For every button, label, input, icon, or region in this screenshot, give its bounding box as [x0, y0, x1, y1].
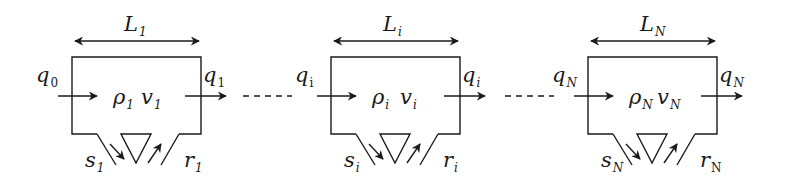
- speed-label: v1: [141, 85, 162, 112]
- inflow-label: q0: [36, 63, 58, 90]
- road-segment: LNqNqNρNvNsNrN: [552, 12, 744, 175]
- segment-chain-diagram: L1q0q1ρ1v1s1r1LiqiqiρivisiriLNqNqNρNvNsN…: [0, 0, 794, 189]
- ramp-divider-triangle: [380, 134, 410, 163]
- onramp-arrow-icon: [148, 144, 161, 163]
- inflow-label: qN: [552, 63, 577, 90]
- length-label: LN: [639, 12, 666, 39]
- inflow-label: qi: [295, 63, 313, 90]
- offramp-label: si: [344, 148, 360, 175]
- outflow-label: qi: [462, 63, 480, 90]
- ramp-divider-triangle: [121, 134, 151, 163]
- length-label: L1: [123, 12, 147, 39]
- offramp-label: s1: [85, 148, 104, 175]
- onramp-arrow-icon: [664, 144, 677, 163]
- offramp-arrow-icon: [110, 144, 124, 159]
- offramp-arrow-icon: [626, 144, 640, 159]
- onramp-label: rN: [700, 148, 722, 175]
- outflow-label: qN: [719, 63, 744, 90]
- road-segment: Liqiqiρivisiri: [295, 12, 485, 175]
- ramp-divider-triangle: [637, 134, 667, 163]
- onramp-wall: [677, 134, 695, 165]
- speed-label: vN: [657, 85, 681, 112]
- density-label: ρ1: [112, 85, 134, 112]
- onramp-wall: [420, 134, 438, 165]
- offramp-label: sN: [601, 148, 624, 175]
- length-label: Li: [382, 12, 402, 39]
- onramp-label: ri: [443, 148, 458, 175]
- onramp-wall: [161, 134, 179, 165]
- road-segment: L1q0q1ρ1v1s1r1: [36, 12, 226, 175]
- offramp-arrow-icon: [369, 144, 383, 159]
- speed-label: vi: [400, 85, 417, 112]
- onramp-label: r1: [184, 148, 203, 175]
- outflow-label: q1: [203, 63, 225, 90]
- onramp-arrow-icon: [407, 144, 420, 163]
- density-label: ρN: [628, 85, 653, 112]
- density-label: ρi: [371, 85, 389, 112]
